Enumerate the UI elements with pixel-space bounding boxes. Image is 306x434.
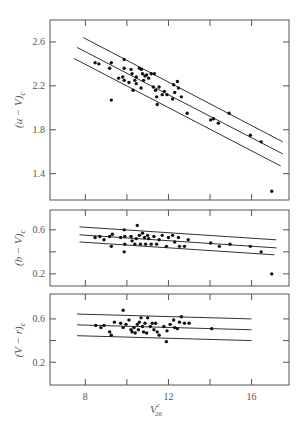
data-point: [155, 242, 158, 245]
data-point: [111, 233, 114, 236]
data-point: [97, 62, 100, 65]
figure: 1.41.82.22.6 0.20.6 812160.20.6 (u − V)c…: [0, 0, 306, 434]
data-point: [108, 67, 111, 70]
data-point: [124, 323, 127, 326]
panel-u-minus-v: 1.41.82.22.6: [33, 20, 290, 200]
data-point: [122, 228, 125, 231]
data-point: [119, 322, 122, 325]
data-point: [137, 328, 140, 331]
data-point: [172, 83, 175, 86]
data-point: [127, 81, 130, 84]
data-point: [153, 72, 156, 75]
data-point: [102, 324, 105, 327]
data-point: [172, 318, 175, 321]
data-point: [249, 245, 252, 248]
x-tick-label: 12: [163, 391, 173, 402]
data-point: [146, 316, 149, 319]
fit-line-fit: [77, 47, 283, 153]
data-point: [99, 326, 102, 329]
data-point: [173, 240, 176, 243]
data-point: [93, 236, 96, 239]
y-tick-label: 0.2: [33, 268, 46, 279]
data-point: [178, 245, 181, 248]
data-point: [154, 89, 157, 92]
data-point: [168, 323, 171, 326]
data-point: [161, 234, 164, 237]
data-point: [177, 236, 180, 239]
data-point: [129, 68, 132, 71]
data-point: [122, 79, 125, 82]
data-point: [212, 117, 215, 120]
y-axis-label-top: (u − V)c: [12, 92, 27, 128]
data-point: [157, 238, 160, 241]
data-point: [138, 320, 141, 323]
data-point: [151, 322, 154, 325]
data-point: [122, 250, 125, 253]
data-point: [156, 103, 159, 106]
y-tick-label: 0.6: [33, 224, 46, 235]
data-point: [147, 237, 150, 240]
data-point: [145, 73, 148, 76]
data-point: [134, 331, 137, 334]
data-point: [135, 75, 138, 78]
fit-line-lower: [77, 336, 252, 341]
x-tick-label: 8: [83, 391, 88, 402]
data-point: [121, 309, 124, 312]
data-point: [165, 93, 168, 96]
x-axis-label: Vc26: [150, 401, 162, 418]
plot-frame: [50, 294, 289, 385]
fit-line-upper: [77, 314, 252, 319]
data-point: [122, 58, 125, 61]
y-tick-label: 1.4: [33, 168, 46, 179]
data-point: [227, 112, 230, 115]
data-point: [130, 330, 133, 333]
data-point: [173, 91, 176, 94]
data-point: [217, 121, 220, 124]
data-point: [185, 112, 188, 115]
data-point: [129, 235, 132, 238]
data-point: [178, 320, 181, 323]
data-point: [110, 245, 113, 248]
data-point: [93, 61, 96, 64]
data-point: [136, 224, 139, 227]
data-point: [135, 82, 138, 85]
data-point: [131, 89, 134, 92]
y-tick-label: 1.8: [33, 124, 46, 135]
data-point: [152, 328, 155, 331]
data-point: [157, 333, 160, 336]
data-point: [132, 326, 135, 329]
data-point: [122, 67, 125, 70]
data-point: [210, 327, 213, 330]
data-point: [141, 231, 144, 234]
data-point: [110, 333, 113, 336]
plot-frame: [50, 20, 289, 200]
data-point: [180, 315, 183, 318]
data-point: [165, 245, 168, 248]
data-point: [141, 325, 144, 328]
data-point: [145, 331, 148, 334]
data-point: [119, 236, 122, 239]
data-point: [144, 242, 147, 245]
data-point: [155, 95, 158, 98]
data-point: [139, 316, 142, 319]
data-point: [123, 242, 126, 245]
data-point: [218, 245, 221, 248]
data-point: [94, 324, 97, 327]
data-point: [183, 245, 186, 248]
data-point: [133, 242, 136, 245]
data-point: [163, 90, 166, 93]
y-axis-label-middle: (b − V)c: [12, 230, 27, 266]
data-point: [149, 325, 152, 328]
data-point: [157, 85, 160, 88]
data-point: [130, 72, 133, 75]
y-tick-label: 2.2: [33, 80, 46, 91]
data-point: [108, 330, 111, 333]
data-point: [152, 85, 155, 88]
data-point: [180, 95, 183, 98]
data-point: [121, 326, 124, 329]
data-point: [98, 235, 101, 238]
data-point: [187, 322, 190, 325]
fit-line-lower: [80, 242, 275, 255]
data-point: [146, 234, 149, 237]
data-point: [249, 134, 252, 137]
